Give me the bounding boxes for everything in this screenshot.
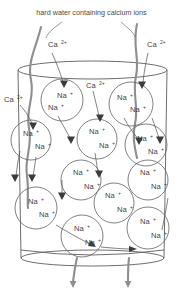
sodium-out-arrow-1 (58, 116, 70, 138)
sodium-ion-label: Na (117, 93, 127, 102)
arrowhead (138, 82, 146, 90)
diagram-canvas: hard water containing calcium ions (0, 0, 183, 292)
ion-exchange-diagram: hard water containing calcium ions (0, 0, 183, 292)
sodium-ion-charge: + (52, 209, 55, 215)
sodium-ion-label: Na (140, 217, 150, 226)
sodium-ion-label: Na (48, 103, 58, 112)
bead-outline (15, 187, 57, 229)
sodium-ion-charge: + (130, 92, 133, 98)
bead-outline (41, 79, 83, 121)
calcium-in-arrow-2 (143, 53, 148, 82)
sodium-ion-label: Na (73, 168, 83, 177)
calcium-ion-label: Ca (48, 40, 58, 49)
calcium-ion-label: Ca (4, 95, 14, 104)
sodium-ion-label: Na (28, 197, 38, 206)
sodium-ion-charge: + (153, 167, 156, 173)
resin-bead: Na + Na + (109, 82, 153, 126)
sodium-ion-charge: + (86, 167, 89, 173)
calcium-ion-charge: 2+ (17, 94, 23, 100)
sodium-ion-charge: + (70, 90, 73, 96)
calcium-ion-label: Ca (86, 81, 96, 90)
sodium-ion-label: Na (89, 127, 99, 136)
bead-outline (61, 215, 103, 257)
sodium-ion-charge: + (150, 133, 153, 139)
sodium-ion-label: Na (39, 210, 49, 219)
sodium-ion-label: Na (105, 191, 115, 200)
sodium-ion-charge: + (143, 104, 146, 110)
sodium-ion-charge: + (112, 140, 115, 146)
calcium-callouts: Ca 2+ Ca 2+ Ca 2+ Ca 2+ (4, 39, 166, 105)
softened-water-outlet-left-stream (73, 258, 77, 282)
sodium-ion-label: Na (130, 105, 140, 114)
outlet-right-arrowhead (125, 281, 132, 288)
sodium-ion-charge: + (61, 102, 64, 108)
resin-bead: Na + Na + (77, 119, 117, 159)
resin-bead: Na + Na + (61, 160, 101, 200)
sodium-ion-charge: + (161, 146, 164, 152)
arrowhead (11, 175, 19, 183)
sodium-ion-label: Na (74, 224, 84, 233)
sodium-ion-label: Na (57, 91, 67, 100)
calcium-callout: Ca 2+ (48, 39, 67, 50)
hard-water-inlet-left-stream (26, 27, 41, 208)
arrowhead (156, 137, 164, 145)
calcium-in-arrow-4 (93, 91, 99, 116)
bead-outline (61, 160, 101, 200)
sodium-ion-charge: + (130, 204, 133, 210)
calcium-callout: Ca 2+ (86, 80, 105, 91)
sodium-ion-charge: + (36, 128, 39, 134)
bead-outline (77, 119, 117, 159)
figure-caption: hard water containing calcium ions (36, 8, 147, 17)
resin-bead: Na + Na + (15, 187, 57, 229)
arrowhead (67, 137, 75, 145)
sodium-ion-label: Na (23, 129, 33, 138)
caption-leader-left (46, 22, 62, 38)
calcium-ion-label: Ca (147, 40, 157, 49)
sodium-out-arrow-6 (95, 153, 98, 172)
sodium-ion-charge: + (98, 237, 101, 243)
arrowhead (95, 171, 103, 179)
sodium-ion-label: Na (140, 168, 150, 177)
arrowhead (58, 193, 66, 201)
sodium-ion-charge: + (153, 216, 156, 222)
sodium-ion-label: Na (117, 205, 127, 214)
bead-outline (94, 183, 134, 223)
resin-bead: Na + Na + (94, 183, 134, 223)
sodium-ion-label: Na (148, 147, 158, 156)
resin-bead: Na + Na + (61, 215, 103, 257)
outlet-left-arrowhead (70, 281, 77, 288)
arrowhead (28, 175, 36, 183)
sodium-ion-charge: + (87, 223, 90, 229)
callout-leader-lines (46, 22, 136, 38)
calcium-ion-charge: 2+ (160, 39, 166, 45)
arrowhead (60, 81, 68, 89)
sodium-out-arrow-9 (101, 247, 131, 249)
calcium-callout: Ca 2+ (4, 94, 23, 105)
sodium-ion-charge: + (118, 190, 121, 196)
calcium-ion-charge: 2+ (99, 80, 105, 86)
calcium-ion-charge: 2+ (61, 39, 67, 45)
resin-bead: Na + Na + (41, 79, 83, 121)
bead-outline (109, 82, 153, 126)
arrowhead (96, 115, 104, 123)
sodium-ion-label: Na (151, 182, 161, 191)
softened-water-outlet-right-stream (128, 258, 129, 282)
sodium-ion-label: Na (35, 142, 45, 151)
sodium-ion-label: Na (84, 182, 94, 191)
resin-bead-group: Na + Na + Na + Na + Na + Na + Na (11, 79, 169, 257)
sodium-ion-charge: + (164, 230, 167, 236)
calcium-callout: Ca 2+ (147, 39, 166, 50)
sodium-ion-label: Na (151, 231, 161, 240)
caption-leader-right (121, 22, 136, 38)
sodium-ion-label: Na (99, 141, 109, 150)
sodium-ion-charge: + (97, 181, 100, 187)
sodium-ion-charge: + (102, 126, 105, 132)
sodium-ion-charge: + (41, 196, 44, 202)
sodium-ion-charge: + (48, 141, 51, 147)
sodium-ion-charge: + (164, 181, 167, 187)
